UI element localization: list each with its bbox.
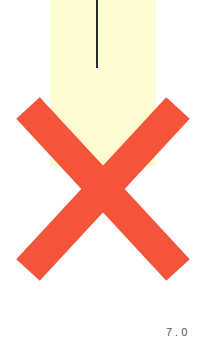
page-number: 7.0 (166, 326, 190, 338)
